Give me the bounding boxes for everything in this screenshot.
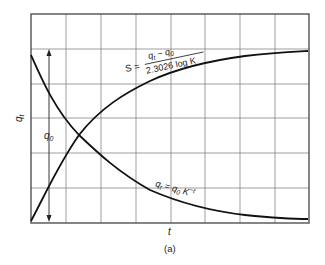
y-axis-label: qt <box>13 113 25 122</box>
figure-caption: (a) <box>164 243 176 254</box>
arrow-down-icon <box>47 215 52 222</box>
growth-curve <box>31 51 308 221</box>
diagram-canvas: qt q0 S = qt − q0 2.3026 log K qt = q0 K… <box>0 0 325 265</box>
q0-label: q0 <box>44 130 54 142</box>
growth-formula: S = qt − q0 2.3026 log K <box>123 40 206 80</box>
x-axis-label: t <box>168 226 172 237</box>
arrow-up-icon <box>47 49 52 56</box>
decay-formula-text: qt = q0 K−t <box>154 176 197 200</box>
decay-formula: qt = q0 K−t <box>154 176 197 200</box>
growth-formula-lhs: S = <box>124 60 141 74</box>
decay-curve <box>31 55 308 219</box>
